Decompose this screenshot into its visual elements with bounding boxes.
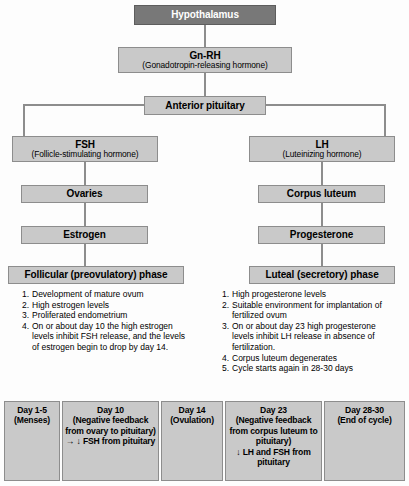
connector-corpus-luteum-progesterone <box>321 203 323 226</box>
follicular-phase-list: 1. Development of mature ovum 2. High es… <box>22 289 190 353</box>
list-item-text: Proliferated endometrium <box>32 310 127 320</box>
list-item-text: High estrogen levels <box>32 300 109 310</box>
timeline-title: Day 14 <box>162 405 222 415</box>
connector-drop-lh <box>384 104 386 136</box>
connector-drop-fsh <box>23 104 25 136</box>
node-fsh: FSH (Follicle-stimulating hormone) <box>12 136 158 162</box>
node-luteal-phase-label: Luteal (secretory) phase <box>265 269 378 280</box>
timeline-box-day-23: Day 23 (Negative feedback from corpus lu… <box>225 401 322 481</box>
list-item: 1. Development of mature ovum <box>22 289 190 300</box>
node-ovaries-label: Ovaries <box>67 188 103 199</box>
node-follicular-phase-label: Follicular (preovulatory) phase <box>24 269 167 280</box>
list-item-number: 3. <box>222 321 229 332</box>
list-item-text: High progesterone levels <box>232 289 326 299</box>
list-item-text: On or about day 10 the high estrogen lev… <box>32 321 185 352</box>
node-gnrh-sublabel: (Gonadotropin-releasing hormone) <box>142 61 267 70</box>
timeline-detail: (Ovulation) <box>162 415 222 425</box>
node-estrogen-label: Estrogen <box>63 229 106 240</box>
connector-progesterone-luteal <box>321 244 323 266</box>
node-estrogen: Estrogen <box>21 226 148 244</box>
node-follicular-phase: Follicular (preovulatory) phase <box>8 266 184 284</box>
list-item-number: 2. <box>222 300 229 311</box>
list-item-number: 5. <box>222 363 229 374</box>
timeline-title: Day 28-30 <box>325 405 404 415</box>
connector-hypothalamus-gnrh <box>204 25 206 47</box>
list-item: 2. High estrogen levels <box>22 300 190 311</box>
node-anterior-pituitary-label: Anterior pituitary <box>165 100 244 111</box>
timeline-box-day-14: Day 14 (Ovulation) <box>161 401 223 481</box>
list-item: 3. Proliferated endometrium <box>22 310 190 321</box>
connector-estrogen-follicular <box>84 244 86 266</box>
list-item: 4. On or about day 10 the high estrogen … <box>22 321 190 353</box>
timeline-detail: (Negative feedback from ovary to pituita… <box>63 415 158 446</box>
flowchart-canvas: Hypothalamus Gn-RH (Gonadotropin-releasi… <box>0 0 409 486</box>
timeline-detail: (Negative feedback from corpus luteum to… <box>226 415 321 467</box>
node-ovaries: Ovaries <box>21 185 148 203</box>
list-item-number: 1. <box>222 289 229 300</box>
list-item-text: Cycle starts again in 28-30 days <box>232 363 353 373</box>
connector-ovaries-estrogen <box>84 203 86 226</box>
node-corpus-luteum: Corpus luteum <box>258 185 385 203</box>
timeline-box-day-1-5: Day 1-5 (Menses) <box>4 401 60 481</box>
list-item-number: 1. <box>22 289 29 300</box>
connector-lh-corpus-luteum <box>321 162 323 185</box>
node-lh-sublabel: (Luteinizing hormone) <box>283 150 362 159</box>
node-corpus-luteum-label: Corpus luteum <box>287 188 356 199</box>
node-lh: LH (Luteinizing hormone) <box>249 136 395 162</box>
list-item: 3. On or about day 23 high progesterone … <box>222 321 398 353</box>
node-hypothalamus: Hypothalamus <box>134 5 276 25</box>
timeline-box-day-10: Day 10 (Negative feedback from ovary to … <box>62 401 159 481</box>
list-item-number: 4. <box>222 353 229 364</box>
timeline-box-day-28-30: Day 28-30 (End of cycle) <box>324 401 405 481</box>
connector-branch-left <box>23 104 144 106</box>
timeline-title: Day 23 <box>226 405 321 415</box>
node-progesterone-label: Progesterone <box>290 229 353 240</box>
node-fsh-sublabel: (Follicle-stimulating hormone) <box>32 150 139 159</box>
node-gnrh: Gn-RH (Gonadotropin-releasing hormone) <box>118 47 292 73</box>
list-item: 5. Cycle starts again in 28-30 days <box>222 363 398 374</box>
timeline-detail: (Menses) <box>5 415 59 425</box>
list-item-number: 2. <box>22 300 29 311</box>
timeline-detail: (End of cycle) <box>325 415 404 425</box>
luteal-phase-list: 1. High progesterone levels 2. Suitable … <box>222 289 398 374</box>
node-anterior-pituitary: Anterior pituitary <box>144 96 266 115</box>
list-item: 2. Suitable environment for implantation… <box>222 300 398 321</box>
list-item-number: 4. <box>22 321 29 332</box>
connector-fsh-ovaries <box>84 162 86 185</box>
list-item-text: Development of mature ovum <box>32 289 144 299</box>
node-hypothalamus-label: Hypothalamus <box>171 9 239 20</box>
node-luteal-phase: Luteal (secretory) phase <box>249 266 395 284</box>
node-progesterone: Progesterone <box>258 226 385 244</box>
list-item-text: Corpus luteum degenerates <box>232 353 337 363</box>
timeline-title: Day 10 <box>63 405 158 415</box>
connector-branch-right <box>266 104 386 106</box>
connector-gnrh-pituitary <box>204 73 206 96</box>
list-item-text: Suitable environment for implantation of… <box>232 300 382 321</box>
timeline-title: Day 1-5 <box>5 405 59 415</box>
list-item-text: On or about day 23 high progesterone lev… <box>232 321 376 352</box>
list-item: 1. High progesterone levels <box>222 289 398 300</box>
list-item-number: 3. <box>22 310 29 321</box>
list-item: 4. Corpus luteum degenerates <box>222 353 398 364</box>
